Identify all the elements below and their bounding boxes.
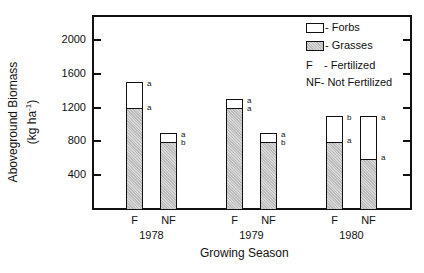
sig-letter-grasses: b <box>181 138 185 147</box>
y-tick-right <box>403 174 411 176</box>
x-tick-label: NF <box>354 214 384 226</box>
x-tick-label: NF <box>154 214 184 226</box>
bar-grasses <box>160 141 177 210</box>
group-label: 1980 <box>332 229 372 241</box>
bar-grasses <box>360 158 377 210</box>
legend-grasses: - Grasses <box>306 39 373 51</box>
group-label: 1978 <box>132 229 172 241</box>
sig-letter-grasses: a <box>247 104 251 113</box>
y-tick <box>93 140 101 142</box>
bar-grasses <box>326 141 343 210</box>
sig-letter-grasses: b <box>281 138 285 147</box>
legend-not-fertilized: NF- Not Fertilized <box>306 76 392 88</box>
bar-grasses <box>260 141 277 210</box>
sig-letter-forbs: b <box>347 113 351 122</box>
group-label: 1979 <box>232 229 272 241</box>
y-tick-right <box>403 140 411 142</box>
y-tick-right <box>403 39 411 41</box>
y-tick <box>93 107 101 109</box>
legend-forbs: - Forbs <box>306 21 360 33</box>
y-tick-label: 800 <box>46 134 86 146</box>
sig-letter-forbs: a <box>381 113 385 122</box>
y-tick <box>93 73 101 75</box>
bar-forbs <box>260 133 277 143</box>
bar-forbs <box>360 116 377 160</box>
bar-forbs <box>326 116 343 143</box>
y-tick-label: 1600 <box>46 67 86 79</box>
y-tick <box>93 39 101 41</box>
y-tick-label: 2000 <box>46 33 86 45</box>
sig-letter-grasses: a <box>347 136 351 145</box>
sig-letter-grasses: a <box>147 103 151 112</box>
y-axis-title: Aboveground Biomass (kg ha-1) <box>6 47 40 197</box>
x-tick-label: NF <box>254 214 284 226</box>
bar-forbs <box>126 82 143 109</box>
y-tick <box>93 174 101 176</box>
grasses-swatch-icon <box>306 41 324 51</box>
forbs-swatch-icon <box>306 23 324 33</box>
y-tick-label: 400 <box>46 168 86 180</box>
bar-grasses <box>126 108 143 210</box>
sig-letter-forbs: a <box>147 79 151 88</box>
x-axis-title: Growing Season <box>200 246 289 260</box>
x-tick-label: F <box>120 214 150 226</box>
y-tick-right <box>403 73 411 75</box>
bar-forbs <box>160 133 177 143</box>
legend-fertilized: F- Fertilized <box>306 59 375 71</box>
y-tick-label: 1200 <box>46 101 86 113</box>
bar-forbs <box>226 99 243 109</box>
sig-letter-grasses: a <box>381 153 385 162</box>
bar-grasses <box>226 108 243 210</box>
y-tick-right <box>403 107 411 109</box>
x-tick-label: F <box>320 214 350 226</box>
x-tick-label: F <box>220 214 250 226</box>
